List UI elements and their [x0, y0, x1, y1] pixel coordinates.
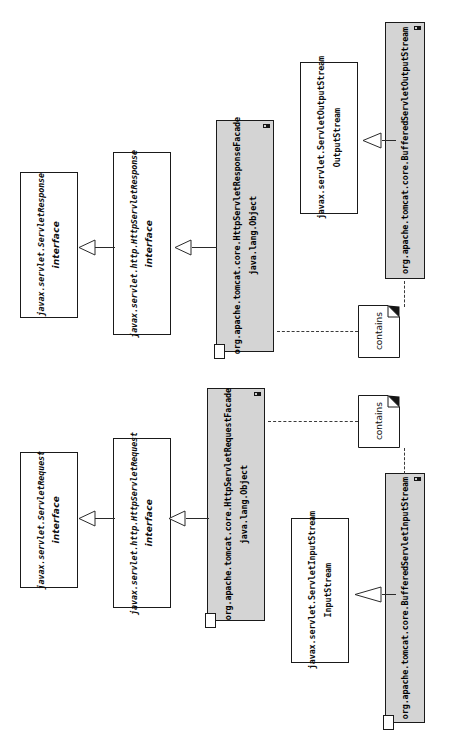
class-superclass-label: InputStream — [324, 563, 332, 617]
class-box-servlet-output-stream[interactable]: OutputStream javax.servlet.ServletOutput… — [300, 62, 358, 214]
class-corner-marker-icon — [263, 124, 270, 128]
class-name-label: javax.servlet.ServletOutputStream — [317, 56, 325, 219]
generalization-line-facade-to-httpresponse — [192, 247, 217, 248]
generalization-line-httprequest-to-request — [95, 518, 115, 519]
class-name-label: javax.servlet.ServletResponse — [37, 173, 45, 316]
class-corner-marker-icon — [414, 26, 421, 30]
class-box-buffered-servlet-output-stream[interactable]: org.apache.tomcat.core.BufferedServletOu… — [385, 22, 425, 279]
class-box-servlet-request-interface[interactable]: interface javax.servlet.ServletRequest — [20, 452, 78, 588]
class-box-servlet-input-stream[interactable]: InputStream javax.servlet.ServletInputSt… — [291, 518, 349, 663]
class-name-label: javax.servlet.ServletRequest — [37, 451, 45, 589]
dependency-line-note-to-request-facade — [268, 421, 358, 422]
class-name-label: org.apache.tomcat.core.HttpServletReques… — [224, 388, 232, 620]
class-stereotype-label: interface — [52, 221, 61, 269]
note-contains-response[interactable]: contains — [358, 305, 400, 358]
generalization-line-bufferedoutput-to-outputstream — [382, 140, 396, 141]
class-name-label: javax.servlet.ServletInputStream — [308, 511, 316, 669]
dependency-line-note-to-buffered-output-stream — [404, 281, 405, 307]
class-stereotype-label: interface — [145, 499, 154, 547]
note-label: contains — [374, 312, 384, 350]
note-contains-request[interactable]: contains — [358, 395, 400, 448]
class-box-servlet-response-interface[interactable]: interface javax.servlet.ServletResponse — [20, 172, 78, 318]
class-corner-marker-icon — [254, 392, 261, 396]
class-box-buffered-servlet-input-stream[interactable]: org.apache.tomcat.core.BufferedServletIn… — [385, 473, 425, 723]
uml-diagram-canvas: interface javax.servlet.ServletResponse … — [0, 0, 450, 739]
dependency-line-note-to-buffered-input-stream — [404, 448, 405, 474]
class-stereotype-label: interface — [145, 220, 154, 268]
class-box-http-servlet-response-facade[interactable]: java.lang.Object org.apache.tomcat.core.… — [216, 120, 274, 352]
class-name-label: org.apache.tomcat.core.BufferedServletOu… — [401, 27, 409, 274]
dependency-line-note-to-response-facade — [277, 331, 358, 332]
note-label: contains — [374, 402, 384, 440]
class-tab-handle-response-facade — [214, 344, 225, 359]
class-superclass-label: java.lang.Object — [240, 465, 248, 544]
class-name-label: org.apache.tomcat.core.BufferedServletIn… — [401, 477, 409, 719]
class-name-label: javax.servlet.http.HttpServletResponse — [130, 150, 138, 338]
class-superclass-label: java.lang.Object — [249, 196, 257, 275]
class-stereotype-label: interface — [52, 496, 61, 544]
generalization-line-facade-to-httprequest — [186, 518, 209, 519]
class-name-label: javax.servlet.http.HttpServletRequest — [130, 432, 138, 615]
class-corner-marker-icon — [414, 477, 421, 481]
generalization-line-httpresponse-to-response — [95, 247, 115, 248]
class-superclass-label: OutputStream — [333, 108, 341, 167]
class-tab-handle-request-facade — [205, 613, 216, 628]
class-tab-handle-buffered-input-stream — [383, 715, 394, 730]
class-box-http-servlet-response-interface[interactable]: interface javax.servlet.http.HttpServlet… — [113, 152, 171, 335]
class-box-http-servlet-request-facade[interactable]: java.lang.Object org.apache.tomcat.core.… — [207, 388, 265, 621]
class-box-http-servlet-request-interface[interactable]: interface javax.servlet.http.HttpServlet… — [113, 438, 171, 608]
class-name-label: org.apache.tomcat.core.HttpServletRespon… — [233, 117, 241, 354]
generalization-line-bufferedinput-to-inputstream — [382, 594, 396, 595]
